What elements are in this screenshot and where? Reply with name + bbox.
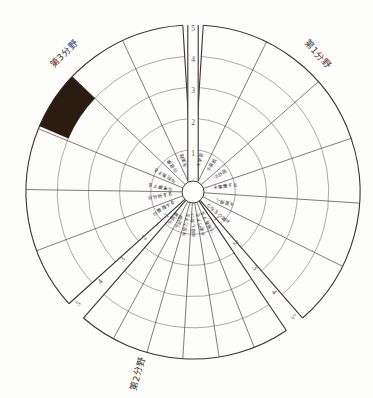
axis-tick-label: 3 [191, 86, 195, 95]
axis-tick-label: 5 [191, 24, 195, 33]
category-label: ⑭分析する [147, 191, 173, 202]
category-label: ⑱実践 [178, 152, 188, 168]
data-fill-layer [40, 21, 199, 181]
category-label: ②意欲 [205, 157, 219, 172]
radial-spoke [123, 41, 189, 182]
category-label: ③計画 [213, 168, 229, 181]
axis-tick-label: 1 [191, 149, 195, 158]
field-label-field3: 第3分野 [47, 37, 79, 69]
grid-ring-arc [26, 25, 183, 303]
radial-spoke [37, 196, 183, 251]
radar-chart-container: 543211234512345①学習②意欲③計画④準備する⑤習得へ⑥関心をもつ⑦… [0, 0, 373, 398]
axis-tick-label: 2 [191, 118, 195, 127]
radar-chart-svg: 543211234512345①学習②意欲③計画④準備する⑤習得へ⑥関心をもつ⑦… [0, 0, 373, 398]
radial-spoke [203, 197, 343, 266]
field-label-field2: 第2分野 [128, 356, 147, 392]
axis-tick-label-lower-left: 5 [74, 299, 83, 308]
category-label: ⑰健康 [165, 158, 179, 174]
axis-tick-label-lower-right: 4 [270, 288, 280, 297]
axis-tick-label-lower-left: 2 [140, 233, 149, 242]
axis-tick-label: 4 [191, 55, 195, 64]
highlighted-cell [40, 77, 95, 139]
field-label-field1: 第1分野 [302, 37, 333, 70]
radial-spoke [198, 42, 267, 182]
category-label: ⑤習得へ [214, 196, 234, 208]
category-label: ④準備する [213, 181, 238, 191]
grid-ring-arc [199, 88, 297, 271]
radial-spoke [38, 129, 182, 188]
chart-hub [182, 181, 204, 203]
grid-ring-arc [88, 88, 186, 262]
radial-spoke [72, 77, 185, 185]
axis-tick-label-lower-right: 5 [289, 312, 299, 321]
axis-tick-label-lower-left: 4 [96, 277, 105, 286]
sector-edge [199, 201, 286, 330]
